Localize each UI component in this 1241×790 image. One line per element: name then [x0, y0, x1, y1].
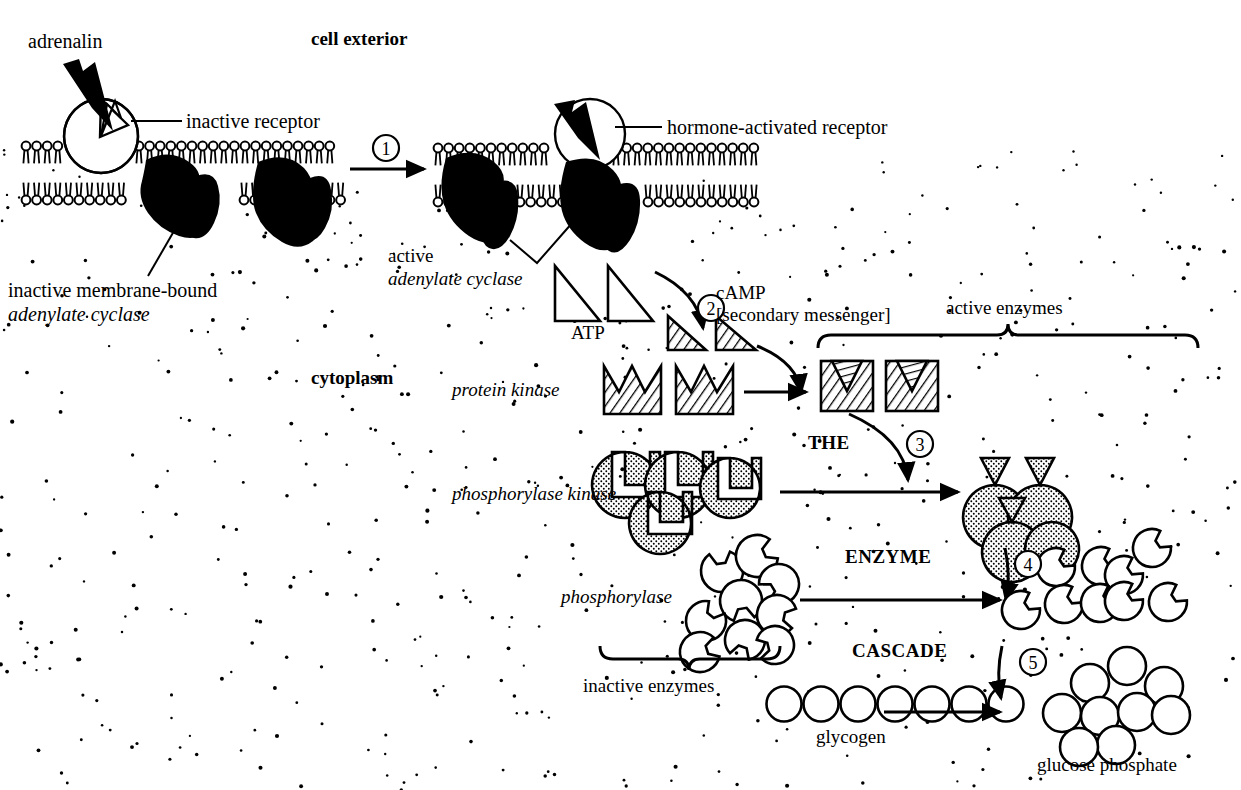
label-camp: cAMP [716, 282, 766, 303]
glucose-phosphate-cluster [1043, 647, 1190, 766]
label-phosphorylase-kinase: phosphorylase kinase [452, 483, 616, 504]
svg-text:3: 3 [916, 435, 925, 455]
cascade-word-cascade: CASCADE [852, 640, 947, 661]
protein-kinase-active [821, 361, 938, 411]
label-inactive-receptor: inactive receptor [186, 110, 320, 132]
camp-to-kinase-arrow [757, 346, 801, 392]
label-active: active [388, 245, 433, 266]
label-inactive-enzymes: inactive enzymes [583, 675, 714, 696]
step-2-arrow [655, 272, 703, 328]
label-atp: ATP [571, 322, 605, 343]
phosphorylase-inactive [680, 535, 799, 672]
diagram-canvas: 12345 adrenalin cell exterior inactive r… [0, 0, 1241, 790]
label-adenylate-cyclase-active: adenylate cyclase [388, 268, 523, 289]
label-active-enzymes: active enzymes [946, 297, 1063, 318]
label-inactive-membrane-bound: inactive membrane-bound [8, 279, 217, 301]
active-enzymes-brace [818, 324, 1198, 348]
label-adenylate-cyclase-inactive: adenylate cyclase [8, 303, 150, 325]
svg-text:1: 1 [382, 139, 391, 159]
label-cell-exterior: cell exterior [311, 28, 408, 49]
label-glucose-phosphate: glucose phosphate [1037, 754, 1177, 775]
label-adrenalin: adrenalin [28, 30, 102, 52]
inactive-adenylate-cyclase-blobs [140, 154, 332, 246]
phosphorylase-kinase-inactive [592, 452, 761, 554]
protein-kinase-inactive [604, 366, 733, 414]
label-glycogen: glycogen [816, 726, 886, 747]
label-protein-kinase: protein kinase [452, 379, 559, 400]
label-cytoplasm: cytoplasm [311, 367, 393, 388]
svg-text:5: 5 [1029, 653, 1038, 673]
label-camp-secondary-messenger: [secondary messenger] [716, 304, 891, 325]
glycogen-chain [767, 687, 1024, 722]
hormone-activated-receptor-shape [554, 99, 625, 169]
step-3-arrow [849, 414, 908, 480]
cascade-word-the: THE [808, 432, 850, 453]
svg-text:4: 4 [1024, 555, 1033, 575]
atp-molecules [555, 266, 653, 321]
cascade-word-enzyme: ENZYME [845, 546, 931, 567]
label-phosphorylase: phosphorylase [561, 586, 672, 607]
label-hormone-activated-receptor: hormone-activated receptor [667, 116, 887, 138]
leader-active-adenylate-cyclase [510, 222, 573, 263]
svg-text:2: 2 [707, 299, 716, 319]
